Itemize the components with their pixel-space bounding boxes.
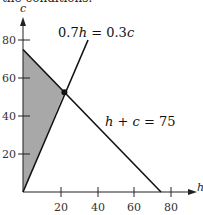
x-axis-arrow-icon	[188, 189, 197, 195]
y-axis-label: c	[20, 2, 26, 15]
equation-label-0.7h-0.3c: 0.7h = 0.3c	[58, 25, 135, 40]
feasible-region-chart: 80 60 40 20 20 40 60 80 c h 0.7h = 0.3c …	[0, 0, 203, 215]
y-tick-label: 80	[2, 34, 16, 47]
x-axis-label: h	[197, 181, 203, 194]
y-axis-arrow-icon	[20, 17, 26, 26]
x-tick-label: 40	[91, 201, 105, 214]
intersection-point	[61, 89, 67, 95]
x-tick-label: 60	[127, 201, 141, 214]
y-tick-label: 60	[2, 72, 16, 85]
y-tick-label: 20	[2, 148, 16, 161]
x-tick-label: 20	[54, 201, 68, 214]
equation-label-h-plus-c-75: h + c = 75	[105, 114, 176, 129]
x-tick-label: 80	[164, 201, 178, 214]
y-tick-label: 40	[2, 110, 16, 123]
